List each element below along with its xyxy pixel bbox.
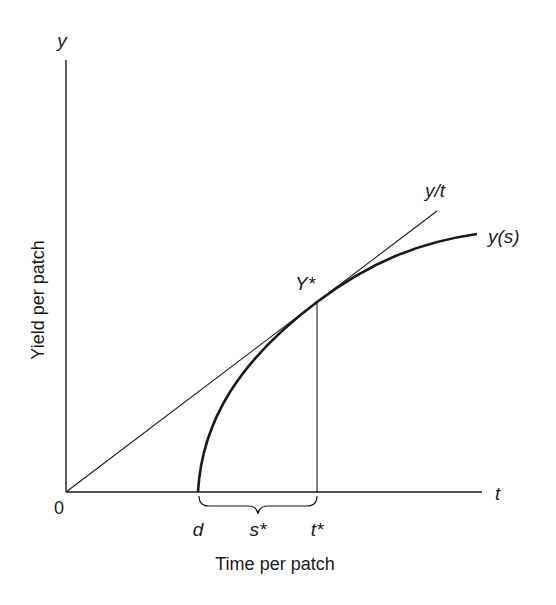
origin-label: 0 — [54, 498, 64, 518]
marginal-value-diagram: y t 0 Yield per patch Time per patch y(s… — [0, 0, 556, 605]
tangent-point-label: Y* — [295, 273, 316, 294]
x-axis-symbol: t — [495, 483, 501, 504]
y-axis-symbol: y — [55, 30, 68, 51]
curve-label: y(s) — [486, 226, 520, 247]
y-axis-title: Yield per patch — [28, 240, 48, 359]
tick-label-d: d — [193, 519, 205, 540]
tick-label-t-star: t* — [311, 519, 324, 540]
s-star-brace — [199, 496, 317, 514]
line-label: y/t — [423, 180, 446, 201]
gain-curve — [198, 234, 477, 492]
x-axis-title: Time per patch — [215, 554, 334, 574]
rate-line — [66, 211, 437, 492]
tick-label-s-star: s* — [250, 519, 268, 540]
